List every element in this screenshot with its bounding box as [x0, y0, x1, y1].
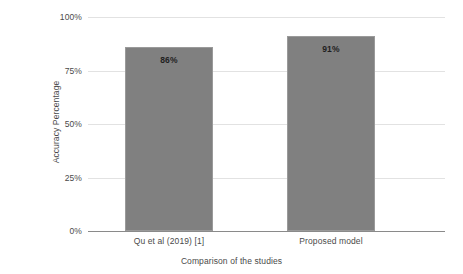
bar-value-label-0: 86% [126, 55, 212, 65]
y-axis-title-wrap: Accuracy Percentage [28, 17, 42, 231]
y-tick-label-100: 100% [60, 12, 82, 22]
bar-0[interactable]: 86% [125, 47, 213, 231]
bar-value-label-1: 91% [288, 44, 374, 54]
y-tick-label-25: 25% [65, 173, 82, 183]
x-axis-title: Comparison of the studies [0, 256, 463, 266]
plot-area: 86% 91% [88, 17, 445, 231]
x-axis-line [88, 231, 445, 232]
y-tick-label-0: 0% [70, 226, 83, 236]
y-axis-ticks: 100% 75% 50% 25% 0% [40, 17, 82, 231]
bar-chart: 86% 91% 100% 75% 50% 25% 0% Accuracy Per… [0, 0, 463, 274]
y-tick-label-75: 75% [65, 66, 82, 76]
bar-1[interactable]: 91% [287, 36, 375, 231]
gridline-100 [88, 17, 445, 18]
x-tick-label-1: Proposed model [299, 236, 362, 246]
x-tick-label-0: Qu et al (2019) [1] [134, 236, 204, 246]
y-axis-title: Accuracy Percentage [51, 52, 61, 192]
y-tick-label-50: 50% [65, 119, 82, 129]
